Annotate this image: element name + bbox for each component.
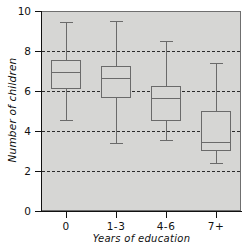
y-tick-4 — [35, 131, 41, 132]
whisker-lower-1-3 — [116, 98, 117, 143]
whisker-lower-7+ — [216, 151, 217, 163]
whisker-upper-1-3 — [116, 21, 117, 66]
y-tick-8 — [35, 51, 41, 52]
x-axis-title: Years of education — [41, 233, 242, 244]
y-tick-6 — [35, 91, 41, 92]
median-1-3 — [101, 78, 131, 79]
x-tick-1 — [116, 212, 117, 218]
y-tick-0 — [35, 211, 41, 212]
cap-upper-4-6 — [160, 41, 173, 42]
whisker-lower-4-6 — [166, 121, 167, 140]
y-axis-line — [41, 11, 42, 212]
cap-upper-0 — [60, 22, 73, 23]
whisker-lower-0 — [66, 89, 67, 120]
whisker-upper-7+ — [216, 63, 217, 111]
y-tick-label-0: 0 — [5, 206, 31, 217]
cap-lower-4-6 — [160, 140, 173, 141]
median-0 — [51, 72, 81, 73]
x-tick-0 — [66, 212, 67, 218]
x-axis-line — [41, 211, 242, 212]
median-4-6 — [151, 98, 181, 99]
cap-upper-7+ — [210, 63, 223, 64]
y-tick-2 — [35, 171, 41, 172]
whisker-upper-4-6 — [166, 41, 167, 86]
box-iqr-0 — [51, 60, 81, 89]
y-tick-label-10: 10 — [5, 6, 31, 17]
cap-upper-1-3 — [110, 21, 123, 22]
x-tick-3 — [216, 212, 217, 218]
gridline-y-6 — [42, 91, 240, 92]
cap-lower-7+ — [210, 163, 223, 164]
x-tick-2 — [166, 212, 167, 218]
boxplot-figure: 0246810 01-34-67+ Number of children Yea… — [0, 0, 252, 244]
gridline-y-8 — [42, 51, 240, 52]
y-axis-title: Number of children — [6, 45, 18, 175]
y-tick-10 — [35, 11, 41, 12]
x-tick-label-7+: 7+ — [186, 221, 246, 232]
cap-lower-1-3 — [110, 143, 123, 144]
box-iqr-1-3 — [101, 66, 131, 98]
cap-lower-0 — [60, 120, 73, 121]
whisker-upper-0 — [66, 22, 67, 60]
median-7+ — [201, 142, 231, 143]
box-iqr-4-6 — [151, 86, 181, 121]
box-iqr-7+ — [201, 111, 231, 151]
gridline-y-2 — [42, 171, 240, 172]
